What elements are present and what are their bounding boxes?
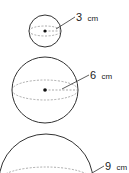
- sphere-large: 9 cm: [0, 134, 128, 173]
- radius-label-small: 3 cm: [76, 7, 99, 24]
- center-dot: [43, 88, 47, 92]
- radius-label-medium: 6 cm: [90, 65, 113, 82]
- leader-line: [92, 166, 104, 173]
- sphere-medium: 6 cm: [12, 57, 113, 123]
- radius-label-large: 9 cm: [105, 156, 128, 173]
- sphere-small: 3 cm: [29, 7, 99, 47]
- center-dot: [43, 29, 46, 32]
- spheres-diagram: 3 cm 6 cm 9 cm: [0, 0, 129, 173]
